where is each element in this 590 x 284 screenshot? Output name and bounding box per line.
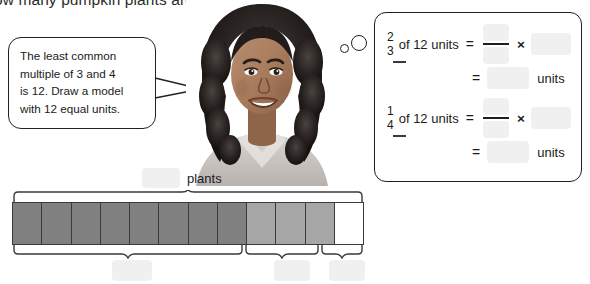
equation-group-2: 1 4 of 12 units = × = units	[387, 101, 571, 169]
fraction-one-fourth: 1 4	[387, 105, 394, 131]
equation-group-1: 2 3 of 12 units = × = units	[387, 27, 571, 95]
fraction-denominator: 3	[387, 44, 394, 57]
large-circle-icon	[351, 35, 367, 51]
fraction-denominator: 4	[387, 118, 394, 131]
bar-unit	[13, 203, 42, 244]
units-label-1: units	[537, 71, 564, 86]
bar-unit	[189, 203, 218, 244]
blank-denominator-1[interactable]	[483, 47, 509, 64]
blank-multiplier-2[interactable]	[531, 107, 571, 129]
bar-model: plants	[6, 168, 370, 275]
fraction-bar	[393, 61, 406, 63]
blank-bottom-3[interactable]	[329, 260, 365, 281]
equation-2-line-1: 1 4 of 12 units = ×	[387, 101, 571, 135]
bar-unit	[101, 203, 130, 244]
brace-bottom-icon	[12, 245, 364, 259]
fraction-numerator: 1	[387, 105, 394, 118]
speech-line-3: is 12. Draw a model	[20, 82, 146, 100]
blank-fraction-1[interactable]	[483, 24, 509, 64]
equation-1-line-1: 2 3 of 12 units = ×	[387, 27, 571, 61]
result-equals-sign-1: =	[472, 70, 480, 86]
blank-total-plants[interactable]	[142, 168, 180, 188]
bar-model-bottom-blanks	[12, 260, 364, 284]
bar-model-top-label: plants	[142, 168, 222, 188]
bar-unit	[218, 203, 247, 244]
bar-unit	[130, 203, 159, 244]
speech-line-4: with 12 equal units.	[20, 100, 146, 118]
result-equals-sign-2: =	[472, 144, 480, 160]
plants-label: plants	[187, 171, 222, 186]
bar-unit	[306, 203, 335, 244]
bar-unit	[247, 203, 276, 244]
bar-unit	[335, 203, 363, 244]
times-sign-2: ×	[517, 111, 525, 126]
fraction-two-thirds: 2 3	[387, 31, 394, 57]
of-12-units-label-2: of 12 units	[399, 111, 459, 126]
bar-unit	[72, 203, 101, 244]
equation-2-line-2: = units	[387, 135, 571, 169]
units-label-2: units	[537, 145, 564, 160]
blank-bottom-2[interactable]	[274, 260, 310, 281]
equals-sign-1: =	[466, 36, 474, 52]
math-panel: 2 3 of 12 units = × = units	[374, 12, 582, 182]
blank-result-2[interactable]	[487, 141, 529, 163]
speech-bubble: The least common multiple of 3 and 4 is …	[8, 37, 156, 129]
equation-1-line-2: = units	[387, 61, 571, 95]
bar-unit	[276, 203, 305, 244]
small-circle-icon	[340, 44, 349, 53]
blank-bottom-1[interactable]	[112, 260, 152, 281]
blank-numerator-1[interactable]	[483, 24, 509, 41]
bar-unit	[159, 203, 188, 244]
student-photo	[186, 0, 338, 186]
times-sign-1: ×	[517, 37, 525, 52]
speech-line-1: The least common	[20, 47, 146, 65]
speech-line-2: multiple of 3 and 4	[20, 65, 146, 83]
blank-numerator-2[interactable]	[483, 98, 509, 115]
brace-top-icon	[12, 190, 364, 202]
speech-bubble-text: The least common multiple of 3 and 4 is …	[20, 47, 146, 117]
blank-denominator-2[interactable]	[483, 121, 509, 138]
of-12-units-label-1: of 12 units	[399, 37, 459, 52]
equals-sign-2: =	[466, 110, 474, 126]
bar-model-units	[12, 202, 364, 245]
blank-fraction-2[interactable]	[483, 98, 509, 138]
blank-result-1[interactable]	[487, 67, 529, 89]
fraction-bar	[393, 135, 406, 137]
blank-multiplier-1[interactable]	[531, 33, 571, 55]
bar-unit	[42, 203, 71, 244]
blank-fraction-bar-2	[483, 117, 509, 119]
blank-fraction-bar-1	[483, 43, 509, 45]
thought-dots	[340, 33, 374, 59]
fraction-numerator: 2	[387, 31, 394, 44]
